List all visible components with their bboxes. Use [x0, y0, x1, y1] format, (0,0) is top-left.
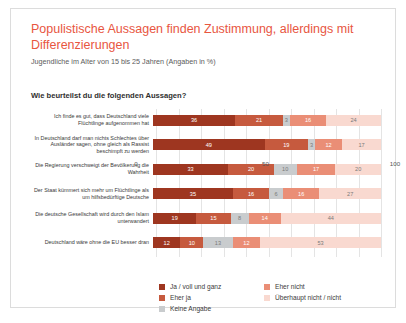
chart-subtitle: Jugendliche im Alter von 15 bis 25 Jahre…	[31, 57, 381, 67]
bar-segment: 49	[153, 139, 265, 150]
gridline	[381, 109, 382, 257]
bar-segment: 16	[290, 115, 326, 126]
legend-swatch-icon	[264, 295, 270, 301]
bar-segment: 16	[233, 188, 269, 199]
legend-item[interactable]: Eher ja	[159, 292, 221, 303]
legend-item-label: Eher ja	[170, 292, 191, 303]
bar-segment: 15	[196, 213, 230, 224]
x-axis-tick-label: 50	[262, 160, 269, 167]
chart-bar-row: Der Staat kümmert sich mehr um Flüchtlin…	[31, 183, 381, 205]
chart-bar-row: Die deutsche Gesellschaft wird durch den…	[31, 207, 381, 229]
legend-item-label: Eher nicht	[275, 281, 305, 292]
chart-plot-area: Ich finde es gut, dass Deutschland viele…	[31, 109, 381, 257]
chart-card: Populistische Aussagen finden Zustimmung…	[10, 8, 396, 308]
chart-x-axis: 050100	[136, 157, 395, 171]
bar-segment: 8	[231, 213, 249, 224]
x-axis-tick-label: 0	[134, 160, 137, 167]
bar-category-label: Die deutsche Gesellschaft wird durch den…	[31, 211, 153, 224]
stacked-bar: 191581444	[153, 213, 381, 224]
legend-item-label: Keine Angabe	[170, 303, 211, 314]
legend-column-1: Ja / voll und ganzEher jaKeine Angabe	[159, 281, 221, 314]
bar-segment: 16	[283, 188, 319, 199]
bar-category-label: Deutschland wäre ohne die EU besser dran	[31, 239, 153, 246]
legend-swatch-icon	[159, 295, 165, 301]
bar-segment: 21	[235, 115, 283, 126]
bar-segment: 17	[342, 139, 381, 150]
bar-segment: 14	[249, 213, 281, 224]
bar-segment: 6	[269, 188, 283, 199]
bar-segment: 12	[233, 237, 260, 248]
page-title: Populistische Aussagen finden Zustimmung…	[31, 21, 381, 53]
bar-segment: 3	[283, 115, 290, 126]
bar-segment: 24	[326, 115, 381, 126]
bar-segment: 10	[180, 237, 203, 248]
stacked-bar: 351661627	[153, 188, 381, 199]
bar-category-label: In Deutschland darf man nichts Schlechte…	[31, 135, 153, 155]
bar-segment: 12	[153, 237, 180, 248]
legend-column-2: Eher nichtÜberhaupt nicht / nicht	[264, 281, 341, 303]
bar-segment: 53	[260, 237, 381, 248]
legend-item[interactable]: Keine Angabe	[159, 303, 221, 314]
chart-bar-row: Ich finde es gut, dass Deutschland viele…	[31, 109, 381, 131]
chart-bar-row: In Deutschland darf man nichts Schlechte…	[31, 134, 381, 156]
bar-segment: 44	[281, 213, 381, 224]
bar-segment: 27	[319, 188, 381, 199]
stacked-bar: 491931217	[153, 139, 381, 150]
stacked-bar: 362131624	[153, 115, 381, 126]
legend-item[interactable]: Überhaupt nicht / nicht	[264, 292, 341, 303]
bar-segment: 3	[308, 139, 315, 150]
bar-segment: 19	[153, 213, 196, 224]
legend-item-label: Überhaupt nicht / nicht	[275, 292, 341, 303]
bar-segment: 12	[315, 139, 342, 150]
legend-item-label: Ja / voll und ganz	[170, 281, 221, 292]
bar-segment: 36	[153, 115, 235, 126]
chart-question: Wie beurteilst du die folgenden Aussagen…	[31, 91, 381, 101]
legend-item[interactable]: Eher nicht	[264, 281, 341, 292]
x-axis-tick-label: 100	[390, 160, 400, 167]
chart-bar-row: Deutschland wäre ohne die EU besser dran…	[31, 232, 381, 254]
legend-item[interactable]: Ja / voll und ganz	[159, 281, 221, 292]
bar-segment: 19	[265, 139, 308, 150]
legend-swatch-icon	[159, 284, 165, 290]
legend-swatch-icon	[159, 306, 165, 312]
bar-category-label: Ich finde es gut, dass Deutschland viele…	[31, 113, 153, 126]
stacked-bar: 1210131253	[153, 237, 381, 248]
legend-swatch-icon	[264, 284, 270, 290]
bar-segment: 13	[203, 237, 233, 248]
bar-segment: 35	[153, 188, 233, 199]
bar-category-label: Der Staat kümmert sich mehr um Flüchtlin…	[31, 187, 153, 200]
